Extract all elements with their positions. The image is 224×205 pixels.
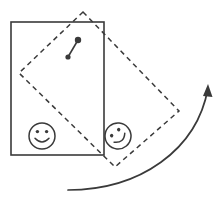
smiley-outline [100,118,137,155]
smiley-face-original [29,123,55,149]
rotation-diagram [0,0,224,205]
smiley-eye-left [109,133,114,138]
marker-head-dot [75,37,81,43]
marker-tail-dot [65,54,70,59]
rotated-rectangle [19,12,179,167]
smiley-eye-left [36,130,39,133]
arrow-head [203,84,213,97]
smiley-mouth [35,138,49,142]
smiley-eye-right [116,127,121,132]
smiley-outline [29,123,55,149]
rotation-direction-arrow [68,84,213,190]
figure-canvas [0,0,224,205]
smiley-mouth [114,133,127,145]
smiley-face-rotated [100,118,137,155]
arrow-curve [68,88,208,190]
center-of-rotation-marker [65,37,81,60]
original-rectangle [11,22,104,155]
smiley-eye-right [45,130,48,133]
